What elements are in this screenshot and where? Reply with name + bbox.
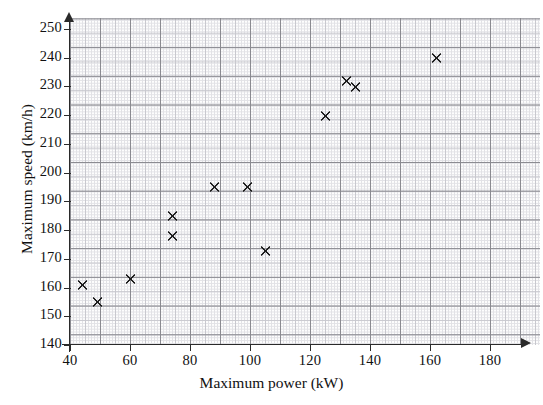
x-tick-100 — [250, 345, 251, 351]
y-axis-line — [69, 22, 70, 352]
y-tick-220 — [64, 115, 71, 116]
plot-area — [70, 18, 540, 345]
x-tick-160 — [430, 345, 431, 351]
y-tick-140 — [64, 345, 71, 346]
x-axis-title: Maximum power (kW) — [0, 374, 543, 392]
data-point — [340, 74, 353, 87]
data-point — [166, 209, 179, 222]
data-point — [319, 109, 332, 122]
y-tick-240 — [64, 58, 71, 59]
x-tick-120 — [310, 345, 311, 351]
data-point — [76, 278, 89, 291]
y-tick-label-250: 250 — [22, 19, 62, 36]
y-tick-label-140: 140 — [22, 335, 62, 352]
x-tick-label-140: 140 — [350, 352, 390, 369]
x-tick-140 — [370, 345, 371, 351]
y-tick-180 — [64, 230, 71, 231]
data-point — [91, 295, 104, 308]
data-point — [430, 51, 443, 64]
y-tick-170 — [64, 259, 71, 260]
data-point-layer — [70, 18, 540, 345]
x-tick-label-60: 60 — [110, 352, 150, 369]
y-tick-200 — [64, 173, 71, 174]
major-gridlines — [70, 18, 540, 345]
x-tick-label-160: 160 — [410, 352, 450, 369]
y-tick-label-150: 150 — [22, 306, 62, 323]
data-point — [166, 229, 179, 242]
data-point — [208, 180, 221, 193]
x-tick-label-40: 40 — [50, 352, 90, 369]
data-point — [124, 272, 137, 285]
x-axis-line — [62, 344, 522, 345]
data-point — [349, 80, 362, 93]
minor-gridlines — [70, 18, 540, 345]
y-tick-250 — [64, 29, 71, 30]
x-tick-label-180: 180 — [470, 352, 510, 369]
x-tick-60 — [130, 345, 131, 351]
y-axis-title: Maximum speed (km/h) — [18, 64, 36, 294]
x-tick-label-100: 100 — [230, 352, 270, 369]
y-tick-160 — [64, 288, 71, 289]
x-axis-arrow-icon — [521, 338, 531, 348]
y-axis-arrow-icon — [64, 12, 74, 22]
x-tick-label-120: 120 — [290, 352, 330, 369]
data-point — [241, 180, 254, 193]
x-tick-label-80: 80 — [170, 352, 210, 369]
data-point — [259, 244, 272, 257]
y-tick-150 — [64, 316, 71, 317]
x-tick-80 — [190, 345, 191, 351]
mid-gridlines — [70, 18, 540, 345]
y-tick-label-240: 240 — [22, 48, 62, 65]
y-tick-190 — [64, 201, 71, 202]
y-tick-230 — [64, 86, 71, 87]
y-tick-210 — [64, 144, 71, 145]
x-tick-180 — [490, 345, 491, 351]
scatter-chart: 406080100120140160180 140150160170180190… — [0, 0, 543, 405]
